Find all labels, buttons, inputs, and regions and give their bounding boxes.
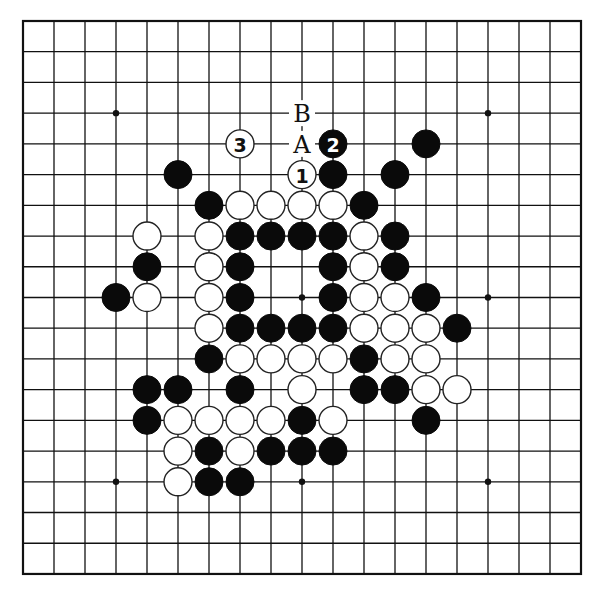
white-stone	[226, 406, 254, 434]
white-stone	[195, 222, 223, 250]
white-stone	[164, 437, 192, 465]
black-stone	[288, 437, 316, 465]
black-stone	[226, 253, 254, 281]
black-stone	[350, 345, 378, 373]
black-stone	[412, 406, 440, 434]
black-stone	[226, 283, 254, 311]
white-stone	[443, 376, 471, 404]
white-stone-move-3: 3	[226, 130, 254, 158]
white-stone	[288, 376, 316, 404]
black-stone	[288, 314, 316, 342]
go-board-diagram: BA 321	[0, 0, 589, 596]
black-stone	[226, 314, 254, 342]
point-label-b: B	[289, 100, 315, 128]
white-stone	[195, 314, 223, 342]
white-stone	[412, 314, 440, 342]
black-stone	[319, 314, 347, 342]
white-stone	[133, 222, 161, 250]
black-stone	[319, 437, 347, 465]
black-stone	[443, 314, 471, 342]
white-stone	[195, 406, 223, 434]
white-stone	[381, 345, 409, 373]
star-point	[299, 479, 305, 485]
star-point	[113, 479, 119, 485]
black-stone	[164, 161, 192, 189]
label-text: B	[293, 100, 311, 128]
white-stone-move-1: 1	[288, 161, 316, 189]
move-number: 2	[326, 134, 339, 156]
black-stone	[381, 222, 409, 250]
white-stone	[319, 345, 347, 373]
white-stone	[319, 191, 347, 219]
white-stone	[257, 345, 285, 373]
black-stone	[381, 161, 409, 189]
white-stone	[381, 283, 409, 311]
black-stone	[257, 314, 285, 342]
white-stone	[412, 345, 440, 373]
white-stone	[350, 222, 378, 250]
black-stone	[133, 376, 161, 404]
black-stone	[288, 406, 316, 434]
black-stone	[288, 222, 316, 250]
white-stone	[164, 406, 192, 434]
white-stone	[412, 376, 440, 404]
black-stone	[350, 191, 378, 219]
black-stone	[381, 253, 409, 281]
black-stone	[412, 283, 440, 311]
move-number: 1	[295, 165, 308, 187]
black-stone	[195, 191, 223, 219]
black-stone	[133, 406, 161, 434]
label-text: A	[292, 131, 311, 159]
white-stone	[195, 253, 223, 281]
star-point	[113, 110, 119, 116]
white-stone	[319, 406, 347, 434]
black-stone	[319, 253, 347, 281]
star-point	[485, 479, 491, 485]
white-stone	[350, 314, 378, 342]
black-stone	[226, 222, 254, 250]
white-stone	[257, 191, 285, 219]
black-stone	[257, 222, 285, 250]
black-stone	[164, 376, 192, 404]
white-stone	[226, 345, 254, 373]
move-number: 3	[233, 134, 246, 156]
black-stone	[319, 222, 347, 250]
black-stone	[226, 376, 254, 404]
star-point	[485, 110, 491, 116]
black-stone	[133, 253, 161, 281]
black-stone	[381, 376, 409, 404]
black-stone	[102, 283, 130, 311]
white-stone	[288, 345, 316, 373]
white-stone	[164, 468, 192, 496]
black-stone	[350, 376, 378, 404]
white-stone	[288, 191, 316, 219]
black-stone-move-2: 2	[319, 130, 347, 158]
black-stone	[412, 130, 440, 158]
white-stone	[226, 191, 254, 219]
black-stone	[319, 161, 347, 189]
black-stone	[195, 437, 223, 465]
white-stone	[350, 283, 378, 311]
point-label-a: A	[289, 131, 315, 159]
star-point	[485, 294, 491, 300]
white-stone	[195, 283, 223, 311]
black-stone	[226, 468, 254, 496]
black-stone	[195, 345, 223, 373]
white-stone	[257, 406, 285, 434]
white-stone	[350, 253, 378, 281]
white-stone	[381, 314, 409, 342]
white-stone	[226, 437, 254, 465]
black-stone	[319, 283, 347, 311]
star-point	[299, 294, 305, 300]
stones-layer: 321	[102, 130, 471, 496]
black-stone	[257, 437, 285, 465]
black-stone	[195, 468, 223, 496]
white-stone	[133, 283, 161, 311]
